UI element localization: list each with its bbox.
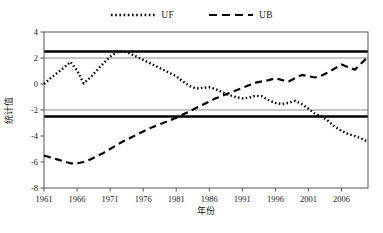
x-tick-label: 1996 xyxy=(267,194,284,204)
x-tick-label: 1986 xyxy=(201,194,218,204)
x-tick-label: 1991 xyxy=(234,194,251,204)
x-tick-label: 1981 xyxy=(168,194,185,204)
x-axis-ticks: 1961196619711976198119861991199620012006 xyxy=(36,188,351,204)
y-tick-label: -2 xyxy=(31,105,38,115)
y-tick-label: -4 xyxy=(31,131,39,141)
mann-kendall-chart: UF UB 420-2-4-6-8 1961196619711976198119… xyxy=(0,0,383,233)
critical-lines-group xyxy=(44,52,368,117)
x-tick-label: 2001 xyxy=(300,194,317,204)
x-tick-label: 1971 xyxy=(102,194,119,204)
x-tick-label: 1976 xyxy=(135,194,152,204)
y-axis-title: 统计值 xyxy=(3,97,14,124)
series-line-uf xyxy=(44,52,368,142)
x-tick-label: 2006 xyxy=(333,194,350,204)
y-axis-ticks: 420-2-4-6-8 xyxy=(31,27,44,193)
y-tick-label: 2 xyxy=(34,53,38,63)
plot-area-wrapper: 420-2-4-6-8 1961196619711976198119861991… xyxy=(0,0,383,233)
x-tick-label: 1966 xyxy=(69,194,86,204)
y-tick-label: 4 xyxy=(34,27,39,37)
x-tick-label: 1961 xyxy=(36,194,53,204)
y-tick-label: -8 xyxy=(31,183,38,193)
y-tick-label: -6 xyxy=(31,157,38,167)
x-axis-title: 年份 xyxy=(197,205,215,216)
y-tick-label: 0 xyxy=(34,79,38,89)
plot-svg: 420-2-4-6-8 1961196619711976198119861991… xyxy=(0,0,383,233)
